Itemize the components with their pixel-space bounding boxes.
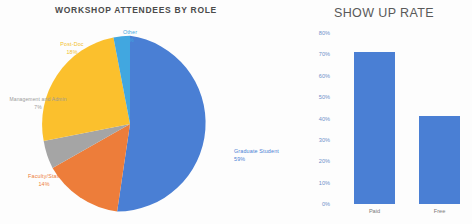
pie-label-faculty-staff-value: 14% <box>8 180 80 188</box>
y-axis-tick: 0% <box>296 201 330 207</box>
bar-free[interactable] <box>419 116 459 204</box>
pie-label-other-value: 3% <box>110 36 150 44</box>
pie-label-post-doc: Post-Doc 18% <box>48 40 96 56</box>
pie-chart-graphic <box>38 32 222 216</box>
bar-paid[interactable] <box>354 52 394 204</box>
bar-chart-plot-area: 80%70%60%50%40%30%20%10%0% PaidFree <box>306 33 472 204</box>
y-axis-tick: 50% <box>296 94 330 100</box>
pie-label-post-doc-value: 18% <box>48 48 96 56</box>
y-axis-tick: 20% <box>296 158 330 164</box>
pie-label-graduate-student-value: 59% <box>234 155 292 163</box>
y-axis-tick: 60% <box>296 73 330 79</box>
bar-chart-panel: SHOW UP RATE 80%70%60%50%40%30%20%10%0% … <box>296 0 472 224</box>
bar-chart-title: SHOW UP RATE <box>296 6 472 20</box>
pie-label-other: Other 3% <box>110 28 150 44</box>
pie-label-post-doc-name: Post-Doc <box>60 41 83 47</box>
pie-label-management-admin-name: Management and Admin <box>9 96 66 102</box>
y-axis-tick: 80% <box>296 30 330 36</box>
pie-label-graduate-student-name: Graduate Student <box>234 148 279 154</box>
pie-label-other-name: Other <box>123 29 137 35</box>
pie-label-management-admin-value: 7% <box>2 104 74 112</box>
y-axis-tick: 30% <box>296 137 330 143</box>
pie-label-management-admin: Management and Admin 7% <box>2 96 74 111</box>
x-axis-tick: Free <box>407 208 472 214</box>
pie-label-graduate-student: Graduate Student 59% <box>234 147 292 163</box>
pie-svg <box>38 32 222 216</box>
pie-chart-title: WORKSHOP ATTENDEES BY ROLE <box>0 5 272 15</box>
x-axis-tick: Paid <box>342 208 407 214</box>
y-axis-tick: 70% <box>296 51 330 57</box>
y-axis-tick: 40% <box>296 116 330 122</box>
slide-canvas: WORKSHOP ATTENDEES BY ROLE Other 3% Post… <box>0 0 472 224</box>
y-axis-tick: 10% <box>296 180 330 186</box>
pie-label-faculty-staff: Faculty/Staff 14% <box>8 172 80 188</box>
pie-slice-graduate-student[interactable] <box>117 36 205 212</box>
pie-chart-panel: WORKSHOP ATTENDEES BY ROLE Other 3% Post… <box>0 0 296 224</box>
pie-label-faculty-staff-name: Faculty/Staff <box>28 173 60 179</box>
